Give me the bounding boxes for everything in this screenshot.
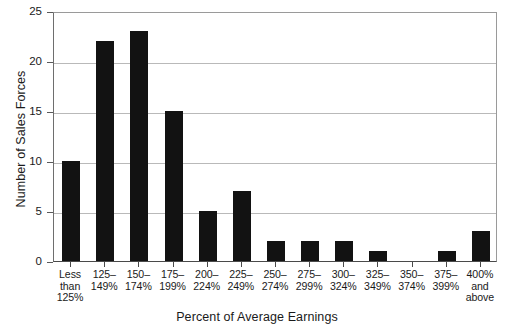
bar — [165, 111, 183, 261]
y-axis-tick — [47, 262, 53, 263]
x-axis-title: Percent of Average Earnings — [0, 310, 514, 324]
bar — [199, 211, 217, 261]
x-axis-tick-label: 125– 149% — [87, 269, 121, 292]
x-axis-tick — [412, 262, 413, 267]
x-axis-tick-label: 175– 199% — [155, 269, 189, 292]
y-axis-tick — [47, 162, 53, 163]
bar — [96, 41, 114, 261]
x-axis-tick — [173, 262, 174, 267]
gridline — [54, 113, 496, 114]
y-axis-tick-label: 20 — [2, 56, 42, 68]
gridline — [54, 213, 496, 214]
x-axis-tick — [275, 262, 276, 267]
y-axis-tick — [47, 112, 53, 113]
y-axis-tick — [47, 62, 53, 63]
y-axis-tick-label: 15 — [2, 106, 42, 118]
bar — [301, 241, 319, 261]
y-axis-tick-label: 25 — [2, 6, 42, 18]
x-axis-tick-label: 275– 299% — [292, 269, 326, 292]
bar — [233, 191, 251, 261]
bar — [335, 241, 353, 261]
gridline — [54, 163, 496, 164]
x-axis-tick — [104, 262, 105, 267]
y-axis-tick — [47, 212, 53, 213]
bar — [130, 31, 148, 261]
x-axis-tick-label: 250– 274% — [258, 269, 292, 292]
plot-area — [53, 12, 497, 262]
x-axis-tick — [377, 262, 378, 267]
x-axis-tick-label: 400% and above — [463, 269, 497, 304]
bar — [62, 161, 80, 261]
histogram-chart: Number of Sales Forces 0510152025 Less t… — [0, 0, 514, 331]
x-axis-tick-label: 225– 249% — [224, 269, 258, 292]
bar — [267, 241, 285, 261]
x-axis-tick-label: 300– 324% — [326, 269, 360, 292]
x-axis-tick-label: 150– 174% — [121, 269, 155, 292]
bar — [438, 251, 456, 261]
x-axis-tick — [70, 262, 71, 267]
y-axis-tick-label: 0 — [2, 256, 42, 268]
x-axis-tick-label: 375– 399% — [429, 269, 463, 292]
bar — [369, 251, 387, 261]
x-axis-tick — [309, 262, 310, 267]
x-axis-tick — [480, 262, 481, 267]
x-axis-tick — [446, 262, 447, 267]
x-axis-tick-label: Less than 125% — [53, 269, 87, 304]
x-axis-tick-label: 350– 374% — [395, 269, 429, 292]
y-axis-tick-label: 10 — [2, 156, 42, 168]
y-axis-tick — [47, 12, 53, 13]
x-axis-tick — [207, 262, 208, 267]
bar — [472, 231, 490, 261]
gridline — [54, 63, 496, 64]
x-axis-tick-label: 200– 224% — [190, 269, 224, 292]
x-axis-tick — [343, 262, 344, 267]
x-axis-tick — [138, 262, 139, 267]
x-axis-tick — [241, 262, 242, 267]
y-axis-tick-label: 5 — [2, 206, 42, 218]
x-axis-tick-label: 325– 349% — [360, 269, 394, 292]
